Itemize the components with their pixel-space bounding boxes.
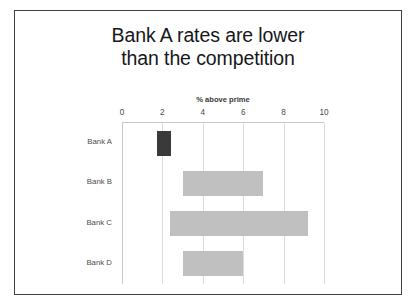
category-label: Bank B	[87, 177, 112, 186]
slide-canvas: Bank A rates are lower than the competit…	[14, 10, 402, 295]
x-tick-label: 8	[269, 108, 299, 117]
gridline	[284, 123, 285, 284]
x-tick-label: 0	[107, 108, 137, 117]
category-label: Bank A	[87, 137, 112, 146]
gridline	[122, 123, 123, 284]
bar	[183, 251, 244, 276]
x-tick-label: 10	[309, 108, 339, 117]
horizontal-bar-chart: % above prime 0246810 Bank ABank BBank C…	[15, 11, 401, 294]
y-axis-category-labels: Bank ABank BBank CBank D	[53, 122, 117, 283]
x-tick-label: 4	[188, 108, 218, 117]
category-label: Bank D	[86, 258, 112, 267]
category-label: Bank C	[86, 218, 112, 227]
x-tick-label: 6	[228, 108, 258, 117]
gridline	[324, 123, 325, 284]
x-tick-label: 2	[147, 108, 177, 117]
x-axis-title: % above prime	[122, 95, 324, 104]
x-axis-tick-labels: 0246810	[122, 108, 324, 119]
plot-area	[122, 122, 324, 284]
bar	[170, 211, 307, 236]
bar	[183, 171, 264, 196]
bar-highlighted	[157, 131, 171, 156]
